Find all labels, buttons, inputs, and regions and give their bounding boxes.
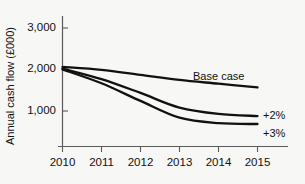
- x-tick-label-2015: 2015: [245, 156, 271, 168]
- x-tick-label-2012: 2012: [128, 156, 154, 168]
- x-tick-label-2013: 2013: [167, 156, 193, 168]
- y-tick-label-3000: 3,000: [27, 21, 56, 33]
- x-tick-label-2014: 2014: [206, 156, 232, 168]
- y-tick-label-1000: 1,000: [27, 104, 56, 116]
- cash-flow-line-chart: Annual cash flow (£000) 3,000 2,000 1,00…: [0, 0, 305, 184]
- series-label-base-case: Base case: [193, 70, 244, 82]
- chart-canvas: Annual cash flow (£000) 3,000 2,000 1,00…: [0, 0, 305, 184]
- y-axis-title: Annual cash flow (£000): [4, 27, 16, 145]
- x-tick-label-2010: 2010: [50, 156, 76, 168]
- x-tick-label-2011: 2011: [89, 156, 114, 168]
- series-label-plus-3-percent: +3%: [263, 127, 286, 139]
- x-axis-tick-labels: 2010 2011 2012 2013 2014 2015: [50, 156, 271, 168]
- series-label-plus-2-percent: +2%: [263, 109, 286, 121]
- y-tick-label-2000: 2,000: [27, 62, 56, 74]
- y-axis-tick-labels: 3,000 2,000 1,000: [27, 21, 56, 116]
- x-axis-ticks: [63, 147, 258, 153]
